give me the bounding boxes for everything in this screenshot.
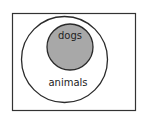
animals-label: animals: [48, 77, 87, 88]
dogs-label: dogs: [58, 30, 82, 41]
euler-diagram: dogs animals: [0, 0, 146, 115]
